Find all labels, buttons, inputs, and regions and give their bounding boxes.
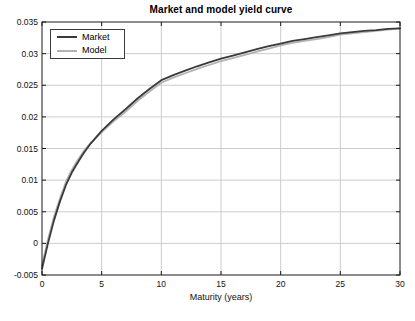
model-line-sample [57, 50, 77, 52]
x-tick-label: 15 [216, 279, 226, 289]
legend: Market Model [50, 29, 125, 59]
y-tick-label: 0.005 [17, 207, 39, 217]
legend-label-market: Market [82, 33, 110, 42]
y-tick-label: 0.02 [21, 112, 38, 122]
y-tick-label: 0.025 [17, 80, 39, 90]
x-tick-label: 25 [336, 279, 346, 289]
legend-item-market: Market [51, 31, 124, 44]
y-tick-label: 0.01 [21, 175, 38, 185]
x-tick-label: 5 [99, 279, 104, 289]
x-axis-label: Maturity (years) [42, 292, 400, 302]
x-tick-label: 0 [40, 279, 45, 289]
x-tick-label: 20 [276, 279, 286, 289]
legend-item-model: Model [51, 44, 124, 57]
y-tick-label: -0.005 [14, 270, 38, 280]
x-tick-label: 10 [157, 279, 167, 289]
legend-label-model: Model [82, 46, 107, 55]
y-tick-label: 0.03 [21, 49, 38, 59]
y-tick-label: 0.015 [17, 144, 39, 154]
figure: Market and model yield curve 05101520253… [0, 0, 415, 321]
y-tick-label: 0.035 [17, 17, 39, 27]
y-tick-label: 0 [33, 238, 38, 248]
market-line-sample [57, 36, 77, 38]
x-tick-label: 30 [395, 279, 405, 289]
